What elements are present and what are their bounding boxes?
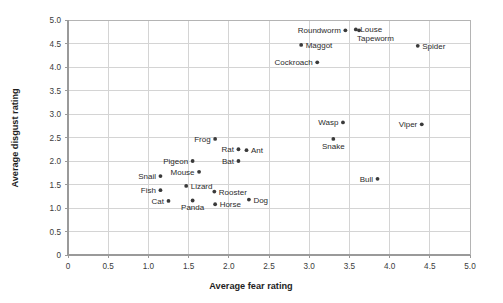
point-marker: [420, 122, 424, 126]
point-marker: [159, 188, 163, 192]
point-marker: [343, 28, 347, 32]
data-point: Cat: [152, 197, 171, 206]
y-tick-label: 2.5: [50, 134, 62, 143]
y-tick-label: 2.0: [50, 157, 62, 166]
y-tick-label: 3.0: [50, 110, 62, 119]
data-point: Bat: [222, 157, 240, 166]
scatter-chart: 00.51.01.52.02.53.03.54.04.55.000.51.01.…: [0, 0, 503, 303]
data-point: Maggot: [299, 41, 333, 50]
point-marker: [416, 44, 420, 48]
data-point: Rat: [221, 145, 240, 154]
data-point: Dog: [247, 196, 268, 205]
data-point: Panda: [181, 199, 205, 213]
x-tick-label: 1.0: [143, 262, 155, 271]
x-axis-title: Average fear rating: [209, 281, 292, 291]
point-marker: [315, 60, 319, 64]
data-point: Snail: [138, 172, 162, 181]
point-label: Louse: [360, 25, 382, 34]
point-label: Cat: [152, 197, 165, 206]
point-label: Fish: [141, 186, 156, 195]
point-marker: [213, 137, 217, 141]
x-tick-label: 1.5: [183, 262, 195, 271]
point-label: Rat: [221, 145, 234, 154]
y-tick-label: 0: [56, 251, 61, 260]
data-point: Cockroach: [274, 58, 319, 67]
point-label: Rooster: [219, 188, 247, 197]
point-marker: [191, 199, 195, 203]
point-label: Wasp: [318, 118, 339, 127]
point-marker: [245, 148, 249, 152]
point-label: Frog: [194, 135, 210, 144]
point-label: Horse: [220, 200, 242, 209]
x-tick-label: 3.5: [344, 262, 356, 271]
point-label: Bat: [222, 157, 235, 166]
y-axis-title: Average disgust rating: [10, 88, 20, 187]
y-tick-label: 5.0: [50, 16, 62, 25]
x-tick-label: 4.5: [424, 262, 436, 271]
point-label: Panda: [181, 203, 205, 212]
point-label: Snake: [322, 142, 345, 151]
y-tick-label: 1.0: [50, 204, 62, 213]
point-marker: [299, 43, 303, 47]
y-tick-label: 3.5: [50, 87, 62, 96]
y-tick-label: 0.5: [50, 228, 62, 237]
data-point: Bull: [360, 175, 380, 184]
point-label: Viper: [399, 120, 418, 129]
point-label: Tapeworm: [357, 34, 394, 43]
data-point: Snake: [322, 137, 345, 151]
point-marker: [197, 170, 201, 174]
point-marker: [237, 147, 241, 151]
x-tick-label: 2.0: [223, 262, 235, 271]
point-marker: [247, 198, 251, 202]
data-point: Viper: [399, 120, 424, 129]
data-point: Frog: [194, 135, 217, 144]
point-marker: [212, 190, 216, 194]
point-label: Ant: [251, 146, 264, 155]
point-label: Bull: [360, 175, 374, 184]
data-point: Roundworm: [298, 26, 348, 35]
x-tick-label: 0: [66, 262, 71, 271]
y-tick-label: 4.5: [50, 40, 62, 49]
point-label: Lizard: [191, 182, 213, 191]
grid-lines: [68, 20, 470, 255]
point-marker: [357, 28, 361, 32]
point-label: Pigeon: [163, 157, 188, 166]
chart-canvas: 00.51.01.52.02.53.03.54.04.55.000.51.01.…: [0, 0, 503, 303]
point-label: Maggot: [306, 41, 333, 50]
point-label: Snail: [138, 172, 156, 181]
x-tick-label: 0.5: [103, 262, 115, 271]
y-tick-label: 4.0: [50, 63, 62, 72]
point-marker: [354, 28, 358, 32]
point-marker: [167, 199, 171, 203]
tick-labels: 00.51.01.52.02.53.03.54.04.55.000.51.01.…: [50, 16, 477, 271]
x-tick-label: 5.0: [464, 262, 476, 271]
x-tick-label: 2.5: [263, 262, 275, 271]
x-tick-label: 3.0: [304, 262, 316, 271]
point-marker: [376, 177, 380, 181]
point-marker: [213, 202, 217, 206]
point-marker: [159, 174, 163, 178]
data-point: Rooster: [212, 188, 247, 197]
point-label: Mouse: [171, 168, 196, 177]
x-tick-label: 4.0: [384, 262, 396, 271]
point-marker: [341, 121, 345, 125]
point-label: Cockroach: [274, 58, 312, 67]
point-marker: [237, 159, 241, 163]
point-label: Spider: [422, 42, 445, 51]
y-tick-label: 1.5: [50, 181, 62, 190]
point-marker: [331, 137, 335, 141]
point-label: Dog: [253, 196, 268, 205]
point-marker: [191, 159, 195, 163]
axis-ticks: [65, 20, 470, 258]
point-label: Roundworm: [298, 26, 341, 35]
data-point: Ant: [245, 146, 264, 155]
data-point: Wasp: [318, 118, 345, 127]
data-point: Fish: [141, 186, 163, 195]
point-marker: [184, 184, 188, 188]
data-point: Mouse: [171, 168, 201, 177]
